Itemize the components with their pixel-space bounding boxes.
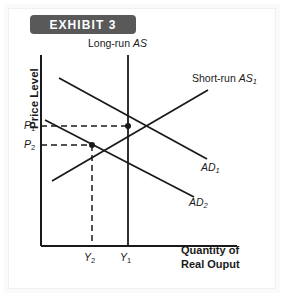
equilibrium-point-1 bbox=[125, 123, 131, 129]
exhibit-badge-label: EXHIBIT 3 bbox=[49, 19, 116, 31]
curve-label-short-run-as1: Short-run AS1 bbox=[192, 72, 257, 85]
x-tick-label-y2-sub: 2 bbox=[91, 256, 95, 265]
curve-label-short-run-as1-prefix: Short-run bbox=[192, 72, 239, 84]
curve-label-ad2: AD2 bbox=[189, 196, 208, 209]
curve-ad2 bbox=[45, 120, 194, 197]
x-axis-title-line1: Quantity of bbox=[181, 244, 239, 256]
curve-label-long-run-as: Long-run AS bbox=[88, 37, 147, 49]
curve-ad1 bbox=[59, 78, 207, 159]
x-tick-label-y2-base: Y bbox=[84, 251, 91, 263]
equilibrium-point-2 bbox=[89, 142, 95, 148]
y-tick-label-p1-sub: 1 bbox=[31, 124, 35, 133]
curve-label-short-run-as1-sub: 1 bbox=[253, 77, 257, 86]
y-tick-label-p2-sub: 2 bbox=[31, 143, 35, 152]
y-tick-label-p1: P1 bbox=[24, 119, 35, 132]
y-tick-label-p2-base: P bbox=[24, 138, 31, 150]
x-tick-label-y1: Y1 bbox=[120, 251, 131, 264]
x-axis-title: Quantity of Real Ouput bbox=[181, 244, 240, 272]
curve-label-long-run-as-prefix: Long-run bbox=[88, 37, 133, 49]
curve-label-long-run-as-italic: AS bbox=[133, 37, 147, 49]
y-tick-label-p2: P2 bbox=[24, 138, 35, 151]
exhibit-badge: EXHIBIT 3 bbox=[30, 15, 136, 34]
curve-label-ad1-sub: 1 bbox=[216, 166, 220, 175]
x-axis-title-line2: Real Ouput bbox=[181, 258, 240, 270]
curve-label-ad2-sub: 2 bbox=[204, 201, 208, 210]
y-tick-label-p1-base: P bbox=[24, 119, 31, 131]
exhibit-figure: EXHIBIT 3 Price Level Quantity of Real O… bbox=[0, 0, 284, 297]
curve-label-ad2-italic: AD bbox=[189, 196, 204, 208]
x-tick-label-y1-sub: 1 bbox=[127, 256, 131, 265]
x-tick-label-y1-base: Y bbox=[120, 251, 127, 263]
x-tick-label-y2: Y2 bbox=[84, 251, 95, 264]
curve-label-short-run-as1-italic: AS bbox=[239, 72, 253, 84]
curve-label-ad1: AD1 bbox=[201, 161, 220, 174]
curve-label-ad1-italic: AD bbox=[201, 161, 216, 173]
